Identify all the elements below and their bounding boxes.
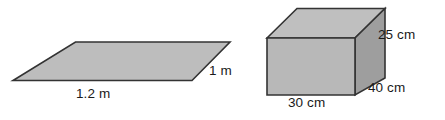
geometry-figures-canvas: [0, 0, 445, 120]
dimension-label-rect-depth: 1 m: [209, 64, 232, 78]
dimension-label-box-width: 30 cm: [288, 96, 325, 110]
dimension-label-box-height: 25 cm: [378, 28, 415, 42]
dimension-label-rect-width: 1.2 m: [76, 87, 110, 101]
dimension-label-box-depth: 40 cm: [368, 81, 405, 95]
flat-rectangle-figure: [13, 42, 230, 81]
cuboid-front-face: [267, 38, 355, 95]
parallelogram-face: [13, 42, 230, 81]
